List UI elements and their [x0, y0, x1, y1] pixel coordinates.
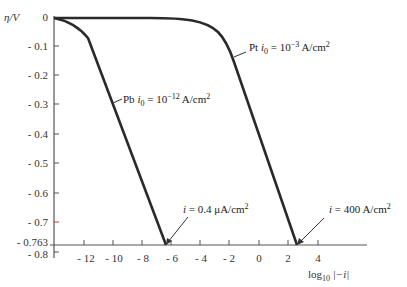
y-axis-label: η/V — [4, 11, 21, 23]
y-tick-label: - 0.5 — [28, 157, 49, 169]
x-tick-label: - 2 — [223, 252, 235, 264]
y-tick-label: - 0.7 — [28, 216, 49, 228]
pb-endpoint-label: i = 0.4 μA/cm2 — [183, 202, 249, 215]
pb-endpoint-arrow — [168, 217, 188, 242]
x-tick-label: 0 — [256, 252, 262, 264]
pb-leader-line — [113, 99, 122, 103]
y-tick-label: - 0.4 — [28, 128, 49, 140]
pb-label: Pb i0 = 10−12 A/cm2 — [123, 92, 210, 108]
pb-curve — [54, 18, 166, 245]
x-ticks — [84, 240, 318, 245]
pt-label: Pt i0 = 10−3 A/cm2 — [249, 40, 330, 56]
y-tick-label: - 0.3 — [28, 98, 49, 110]
x-tick-labels: - 12 - 10 - 8 - 6 - 4 - 2 0 2 4 — [77, 252, 321, 264]
x-tick-label: - 6 — [166, 252, 178, 264]
y-ticks — [54, 46, 59, 252]
chart: 0 - 0.1 - 0.2 - 0.3 - 0.4 - 0.5 - 0.6 - … — [0, 0, 407, 287]
pt-endpoint-label: i = 400 A/cm2 — [329, 202, 391, 215]
y-tick-label: - 0.2 — [28, 69, 48, 81]
x-axis-label: log10 |−i| — [308, 268, 349, 283]
x-tick-label: - 12 — [77, 252, 94, 264]
x-tick-label: 4 — [315, 252, 321, 264]
x-tick-label: - 4 — [195, 252, 207, 264]
pt-endpoint-arrow — [300, 218, 324, 242]
y-tick-label: - 0.6 — [28, 187, 49, 199]
x-tick-label: - 10 — [105, 252, 123, 264]
y-tick-label: - 0.8 — [28, 248, 49, 260]
x-tick-label: 2 — [285, 252, 291, 264]
y-tick-label: - 0.763 — [17, 236, 49, 248]
x-tick-label: - 8 — [137, 252, 149, 264]
y-tick-label: - 0.1 — [28, 40, 48, 52]
y-tick-label: 0 — [43, 11, 49, 23]
pt-leader-line — [234, 52, 246, 57]
y-tick-labels: 0 - 0.1 - 0.2 - 0.3 - 0.4 - 0.5 - 0.6 - … — [17, 11, 49, 260]
